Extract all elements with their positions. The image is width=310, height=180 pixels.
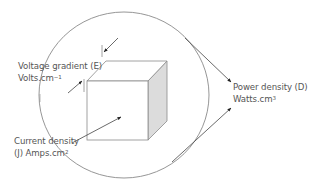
power-density-unit: Watts.cm3 [233, 94, 308, 106]
voltage-gradient-unit: Volts.cm−1 [18, 73, 102, 85]
current-density-title: Current density [14, 136, 79, 148]
current-density-label: Current density (J) Amps.cm2 [14, 136, 79, 159]
voltage-gradient-title: Voltage gradient (E) [18, 61, 102, 73]
voltage-arrow-top [104, 38, 118, 52]
power-arrow-bottom [172, 108, 231, 162]
cube-front-face [87, 81, 148, 140]
voltage-gradient-label: Voltage gradient (E) Volts.cm−1 [18, 61, 102, 84]
current-density-unit: (J) Amps.cm2 [14, 148, 79, 160]
power-density-title: Power density (D) [233, 82, 308, 94]
power-arrow-top [185, 38, 231, 82]
power-density-label: Power density (D) Watts.cm3 [233, 82, 308, 105]
